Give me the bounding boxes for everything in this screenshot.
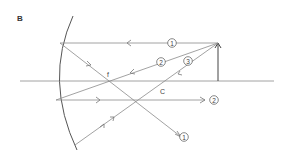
ray-1-marker-bottom: 1 bbox=[180, 133, 189, 142]
focal-point-label: f bbox=[107, 71, 109, 78]
ray-1 bbox=[60, 40, 218, 137]
center-of-curvature-label: C bbox=[160, 88, 165, 95]
svg-text:1: 1 bbox=[182, 134, 186, 141]
ray-2 bbox=[56, 43, 218, 103]
ray-1-marker-top: 1 bbox=[168, 39, 177, 48]
svg-text:3: 3 bbox=[186, 58, 190, 65]
ray-3 bbox=[75, 43, 218, 145]
ray-2-marker-right: 2 bbox=[210, 96, 219, 105]
svg-text:2: 2 bbox=[212, 97, 216, 104]
ray-2-marker-top: 2 bbox=[157, 58, 166, 67]
ray-3-marker: 3 bbox=[184, 57, 193, 66]
concave-mirror bbox=[59, 16, 77, 150]
svg-text:2: 2 bbox=[159, 59, 163, 66]
concave-mirror-ray-diagram: f C 1 1 2 2 3 bbox=[0, 0, 286, 158]
svg-text:1: 1 bbox=[170, 40, 174, 47]
